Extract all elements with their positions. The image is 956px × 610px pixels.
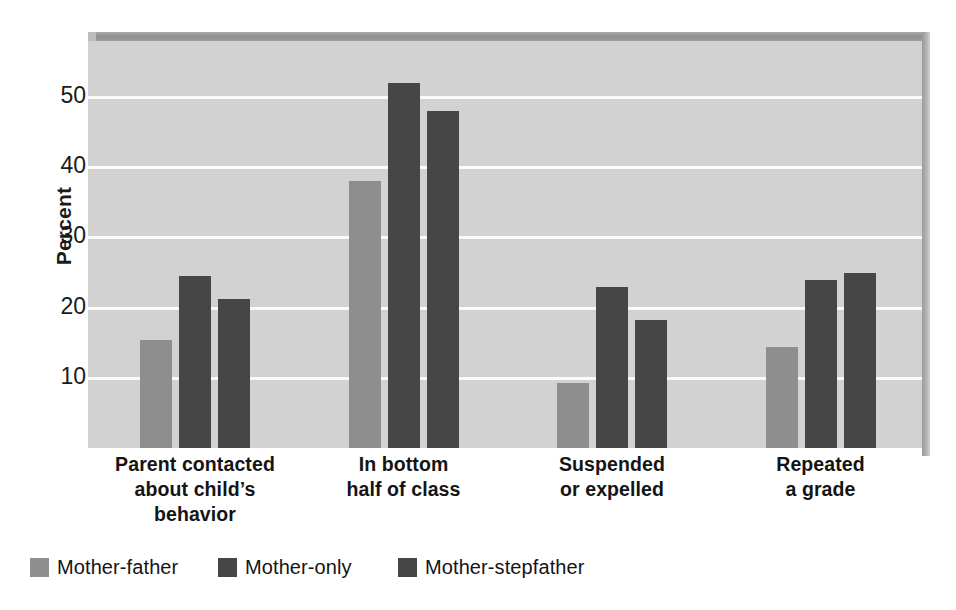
x-category-label-line: Suspended [502, 452, 722, 477]
bar [635, 320, 667, 448]
legend-label: Mother-only [245, 556, 352, 579]
x-category-label: In bottomhalf of class [294, 452, 514, 502]
chart-root: Percent 1020304050 Parent contactedabout… [0, 0, 956, 610]
bar [218, 299, 250, 448]
bar [596, 287, 628, 448]
chart-legend: Mother-fatherMother-onlyMother-stepfathe… [0, 556, 956, 588]
gridline [88, 236, 922, 239]
x-category-label-line: behavior [85, 502, 305, 527]
plot-top-edge-3d [96, 32, 930, 41]
plot-area [88, 41, 922, 448]
y-tick-label: 30 [40, 222, 86, 249]
gridline [88, 96, 922, 99]
legend-label: Mother-father [57, 556, 178, 579]
legend-item[interactable]: Mother-father [30, 556, 178, 579]
y-tick-label: 20 [40, 293, 86, 320]
x-category-label-line: Repeated [711, 452, 931, 477]
gridline [88, 166, 922, 169]
x-category-label: Suspendedor expelled [502, 452, 722, 502]
bar [766, 347, 798, 448]
bar [179, 276, 211, 448]
x-axis-category-labels: Parent contactedabout child’sbehaviorIn … [88, 452, 930, 542]
x-category-label: Repeateda grade [711, 452, 931, 502]
x-category-label-line: Parent contacted [85, 452, 305, 477]
bar [805, 280, 837, 448]
legend-swatch-icon [30, 558, 49, 577]
bar [844, 273, 876, 448]
x-category-label-line: a grade [711, 477, 931, 502]
y-tick-label: 50 [40, 82, 86, 109]
legend-item[interactable]: Mother-only [218, 556, 352, 579]
legend-swatch-icon [218, 558, 237, 577]
bar [427, 111, 459, 448]
plot-area-wrapper [88, 32, 930, 456]
legend-label: Mother-stepfather [425, 556, 585, 579]
legend-item[interactable]: Mother-stepfather [398, 556, 585, 579]
y-tick-label: 40 [40, 152, 86, 179]
x-category-label-line: In bottom [294, 452, 514, 477]
x-category-label: Parent contactedabout child’sbehavior [85, 452, 305, 527]
bar [388, 83, 420, 448]
bar [349, 181, 381, 448]
x-category-label-line: or expelled [502, 477, 722, 502]
y-axis-tick-labels: 1020304050 [34, 0, 86, 610]
x-category-label-line: about child’s [85, 477, 305, 502]
bar [557, 383, 589, 448]
x-category-label-line: half of class [294, 477, 514, 502]
y-tick-label: 10 [40, 363, 86, 390]
plot-right-edge-3d [922, 32, 930, 456]
legend-swatch-icon [398, 558, 417, 577]
gridline [88, 307, 922, 310]
bar [140, 340, 172, 448]
